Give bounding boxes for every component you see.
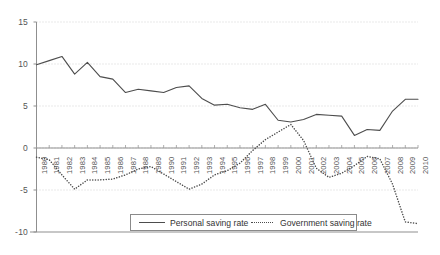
- x-tick-label: 1992: [192, 157, 201, 174]
- axes-group: [30, 22, 418, 232]
- y-tick-label: -5: [2, 185, 28, 195]
- legend-label-government: Government saving rate: [280, 218, 372, 228]
- x-tick-label: 1998: [268, 157, 277, 174]
- y-tick-label: 15: [2, 17, 28, 27]
- x-tick-label: 2010: [421, 157, 430, 174]
- x-tick-label: 1990: [167, 157, 176, 174]
- series-line-personal: [37, 56, 419, 135]
- x-tick-label: 2009: [408, 157, 417, 174]
- x-tick-label: 2008: [396, 157, 405, 174]
- series-line-government: [37, 124, 419, 223]
- legend-entry-government: Government saving rate: [249, 215, 372, 230]
- legend-label-personal: Personal saving rate: [170, 218, 248, 228]
- x-tick-label: 1984: [90, 157, 99, 174]
- x-tick-label: 1997: [256, 157, 265, 174]
- x-tick-label: 1999: [281, 157, 290, 174]
- x-tick-label: 1989: [154, 157, 163, 174]
- x-tick-label: 1988: [141, 157, 150, 174]
- x-tick-label: 1982: [65, 157, 74, 174]
- data-series-group: [37, 56, 419, 223]
- x-tick-label: 2003: [332, 157, 341, 174]
- x-tick-label: 1991: [179, 157, 188, 174]
- legend-line-dotted-icon: [249, 218, 275, 227]
- x-tick-label: 2002: [319, 157, 328, 174]
- x-tick-label: 1987: [129, 157, 138, 174]
- x-tick-label: 2007: [383, 157, 392, 174]
- legend-entry-personal: Personal saving rate: [139, 215, 248, 230]
- x-tick-label: 1983: [78, 157, 87, 174]
- x-tick-label: 1986: [116, 157, 125, 174]
- legend-line-solid-icon: [139, 218, 165, 227]
- x-tick-label: 2006: [370, 157, 379, 174]
- chart-legend: Personal saving rate Government saving r…: [130, 214, 357, 231]
- x-tick-label: 1980: [40, 157, 49, 174]
- y-tick-label: 10: [2, 59, 28, 69]
- y-tick-label: 5: [2, 101, 28, 111]
- x-tick-label: 2001: [307, 157, 316, 174]
- y-tick-label: 0: [2, 143, 28, 153]
- y-tick-label: -10: [2, 227, 28, 237]
- x-tick-label: 1985: [103, 157, 112, 174]
- x-tick-label: 2004: [345, 157, 354, 174]
- x-tick-label: 2005: [357, 157, 366, 174]
- x-tick-label: 2000: [294, 157, 303, 174]
- saving-rate-line-chart: 151050-5-10 1980198119821983198419851986…: [0, 0, 440, 255]
- x-tick-label: 1996: [243, 157, 252, 174]
- x-tick-label: 1993: [205, 157, 214, 174]
- x-tick-label: 1981: [52, 157, 61, 174]
- x-tick-label: 1994: [218, 157, 227, 174]
- x-tick-label: 1995: [230, 157, 239, 174]
